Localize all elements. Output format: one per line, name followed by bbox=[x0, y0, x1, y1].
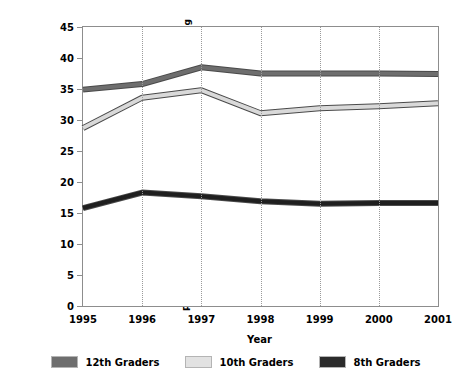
x-axis-tick-label: 1999 bbox=[306, 314, 334, 325]
x-axis-tick-label: 1995 bbox=[69, 314, 97, 325]
y-axis-tick-label: 35 bbox=[60, 84, 74, 95]
gridline-vertical bbox=[261, 27, 262, 306]
y-axis-tick bbox=[77, 213, 83, 214]
legend-item[interactable]: 10th Graders bbox=[185, 356, 293, 368]
gridline-vertical bbox=[201, 27, 202, 306]
x-axis-tick-label: 2001 bbox=[424, 314, 452, 325]
legend-item[interactable]: 12th Graders bbox=[51, 356, 159, 368]
y-axis-tick-label: 0 bbox=[67, 301, 74, 312]
y-axis-tick bbox=[77, 58, 83, 59]
y-axis-tick-label: 40 bbox=[60, 53, 74, 64]
gridline-vertical bbox=[142, 27, 143, 306]
x-axis-tick-label: 1996 bbox=[128, 314, 156, 325]
y-axis-tick bbox=[77, 151, 83, 152]
legend-label: 8th Graders bbox=[353, 357, 420, 368]
y-axis-tick bbox=[77, 244, 83, 245]
plot-area: 4540353025201510501995199619971998199920… bbox=[82, 26, 439, 307]
y-axis-tick bbox=[77, 182, 83, 183]
y-axis-tick bbox=[77, 275, 83, 276]
x-axis-tick-label: 2000 bbox=[365, 314, 393, 325]
y-axis-tick-label: 15 bbox=[60, 208, 74, 219]
y-axis-tick bbox=[77, 89, 83, 90]
y-axis-tick-label: 20 bbox=[60, 177, 74, 188]
y-axis-tick-label: 5 bbox=[67, 270, 74, 281]
y-axis-tick-label: 30 bbox=[60, 115, 74, 126]
legend-label: 10th Graders bbox=[219, 357, 293, 368]
x-axis-tick-label: 1997 bbox=[187, 314, 215, 325]
gridline-vertical bbox=[320, 27, 321, 306]
y-axis-tick-label: 45 bbox=[60, 22, 74, 33]
legend-item[interactable]: 8th Graders bbox=[319, 356, 420, 368]
gridline-vertical bbox=[379, 27, 380, 306]
y-axis-tick bbox=[77, 27, 83, 28]
legend-swatch-icon bbox=[185, 356, 212, 368]
chart-figure: Percentage of Students Reporting Marijua… bbox=[0, 0, 472, 386]
y-axis-label: Percentage of Students Reporting Marijua… bbox=[0, 0, 62, 330]
chart-legend: 12th Graders10th Graders8th Graders bbox=[0, 356, 472, 368]
x-axis-label: Year bbox=[82, 334, 437, 345]
x-axis-tick-label: 1998 bbox=[247, 314, 275, 325]
y-axis-tick-label: 25 bbox=[60, 146, 74, 157]
legend-label: 12th Graders bbox=[85, 357, 159, 368]
legend-swatch-icon bbox=[319, 356, 346, 368]
y-axis-tick bbox=[77, 120, 83, 121]
y-axis-tick bbox=[77, 306, 83, 307]
y-axis-tick-label: 10 bbox=[60, 239, 74, 250]
legend-swatch-icon bbox=[51, 356, 78, 368]
